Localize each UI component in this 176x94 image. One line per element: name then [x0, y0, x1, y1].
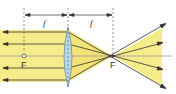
focal-point-left-label: F [21, 60, 27, 70]
focal-point-right-label: F [110, 60, 116, 70]
diverging-fan [113, 28, 162, 86]
focal-length-left-label: f [43, 18, 47, 28]
dimension-lines [25, 14, 112, 17]
lens-ray-diagram: f f F F [0, 0, 176, 94]
focal-point-right-marker [111, 54, 114, 57]
focal-point-left-marker [22, 54, 26, 58]
focal-length-right-label: f [90, 18, 94, 28]
